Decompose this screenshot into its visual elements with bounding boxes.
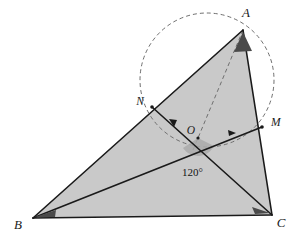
point-dot-o <box>196 136 199 139</box>
figure-canvas: A B C O M N 120° <box>0 0 307 242</box>
label-vertex-a: A <box>241 5 250 20</box>
label-point-o: O <box>187 124 196 136</box>
label-vertex-c: C <box>277 215 286 230</box>
point-dot-m <box>260 125 264 129</box>
point-dot-n <box>150 105 154 109</box>
triangle-abc-shape <box>33 30 272 218</box>
label-point-m: M <box>270 116 282 128</box>
geometry-figure: A B C O M N 120° <box>0 0 307 242</box>
label-point-n: N <box>135 95 145 107</box>
label-vertex-b: B <box>14 217 22 232</box>
label-angle-120: 120° <box>182 166 203 178</box>
